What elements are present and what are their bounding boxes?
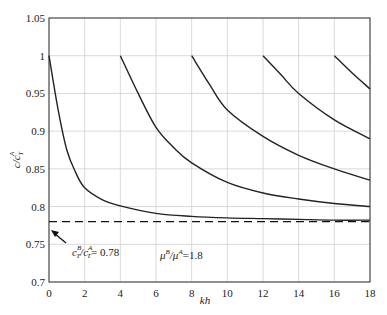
y-tick-label: 0.7 [31,276,45,288]
x-tick-label: 8 [189,287,195,299]
x-tick-label: 2 [82,287,88,299]
mu-ratio-annotation: μB/μA=1.8 [159,248,203,261]
svg-text:c/cTA: c/cTA [8,150,25,168]
curve-mode-5 [334,56,370,89]
x-tick-label: 12 [258,287,269,299]
y-tick-label: 0.9 [31,125,45,137]
x-tick-label: 18 [365,287,377,299]
curve-mode-1 [49,56,370,220]
x-tick-label: 10 [222,287,234,299]
x-tick-label: 0 [46,287,52,299]
y-tick-label: 0.8 [31,201,45,213]
y-tick-label: 0.95 [26,87,46,99]
y-tick-label: 0.75 [26,238,46,250]
curve-mode-4 [263,56,370,139]
curves [49,56,370,220]
y-tick-label: 0.85 [26,163,46,175]
x-tick-label: 14 [293,287,305,299]
x-tick-label: 16 [329,287,341,299]
chart: 0246810121416180.70.750.80.850.90.9511.0… [0,0,387,315]
y-axis-label: c/cTA [8,150,25,168]
ratio-annotation: cBT/cAT= 0.78 [72,244,120,260]
y-tick-label: 1.05 [26,12,46,24]
x-tick-label: 4 [118,287,124,299]
arrow-annotation [51,230,66,243]
x-tick-label: 6 [153,287,159,299]
x-axis-label: kh [200,294,211,306]
plot-frame [49,18,370,282]
grid [49,18,370,282]
y-tick-label: 1 [40,50,46,62]
